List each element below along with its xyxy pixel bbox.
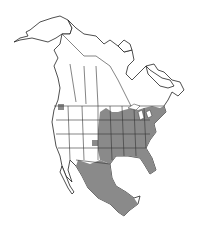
range-mexico: [76, 160, 138, 216]
range-patch-colorado: [92, 140, 98, 146]
range-map: [0, 0, 202, 229]
range-patch-northwest: [58, 104, 64, 110]
